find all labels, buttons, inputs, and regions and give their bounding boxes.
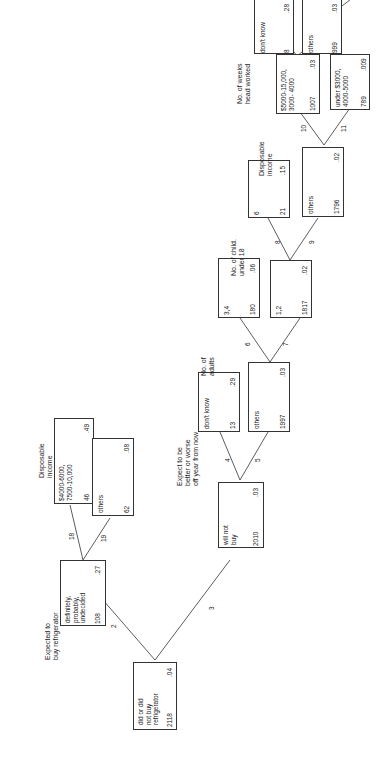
node-n5-count: 1997 <box>279 415 286 429</box>
node-n6-title: No. of adults <box>200 357 216 376</box>
node-n12-rate: .28 <box>283 4 290 13</box>
edge-label-4: 4 <box>224 458 231 462</box>
node-n9-label: others <box>307 196 315 214</box>
node-root-count: 2118 <box>166 713 173 727</box>
node-n5-label: others <box>253 411 261 429</box>
edge-label-6: 6 <box>244 342 251 346</box>
node-n5-rate: .03 <box>279 368 286 377</box>
node-n3-label: will not buy <box>222 525 237 545</box>
edge-label-8: 8 <box>274 240 281 244</box>
node-n18: $4000-6000, 7500-10,000 46 .49 <box>54 418 94 504</box>
node-n2-rate: .27 <box>94 566 101 575</box>
node-n10-label: $5000-15,000, 3000- 4000 <box>280 69 295 111</box>
node-n6-count: 180 <box>249 304 256 315</box>
edge-label-18: 18 <box>68 533 75 540</box>
node-n12: don't know 8 .28 <box>254 0 294 54</box>
node-n19-count: 62 <box>123 506 130 513</box>
node-n18-count: 46 <box>83 494 90 501</box>
node-n2-label: definitely, probably, undecided <box>64 593 87 623</box>
node-n10: $5000-15,000, 3000- 4000 1007 .03 <box>276 54 320 114</box>
node-n13-label: others <box>307 35 315 53</box>
edge-label-10: 10 <box>300 125 307 132</box>
node-n10-count: 1007 <box>309 97 316 111</box>
node-root-rate: .04 <box>166 668 173 677</box>
node-n19: others 62 .08 <box>92 438 134 516</box>
node-n8-rate: .15 <box>279 166 286 175</box>
node-n11-count: 789 <box>360 96 367 107</box>
node-n18-label: $4000-6000, 7500-10,000 <box>58 464 73 501</box>
node-n8-label: 6 <box>253 211 261 215</box>
edge-label-7: 7 <box>282 342 289 346</box>
node-n12-title: No. of weeks head worked <box>236 64 252 104</box>
node-n13: others 999 .03 <box>302 0 342 54</box>
node-n9-rate: .02 <box>333 153 340 162</box>
node-n7-count: 1817 <box>301 301 308 315</box>
node-n8-count: 21 <box>279 208 286 215</box>
edge-label-19: 19 <box>100 535 107 542</box>
node-n4-label: don't know <box>203 398 211 429</box>
node-n2-count: 108 <box>94 613 101 624</box>
node-n7-rate: .02 <box>301 266 308 275</box>
edge-label-3: 3 <box>208 606 215 610</box>
node-n4-title: Expect to be better or worse off year fr… <box>176 432 200 486</box>
node-n5: others 1997 .03 <box>248 362 290 432</box>
node-n8-title: No. of child. under 18 <box>230 239 246 276</box>
edge-label-11: 11 <box>340 125 347 132</box>
node-n11: under $3000, 4000-5000 789 .009 <box>330 54 370 110</box>
node-n3-rate: .03 <box>252 488 259 497</box>
node-root-label: did or did not buy refrigerator <box>137 693 160 725</box>
node-n3-count: 2010 <box>252 532 259 546</box>
node-n2: definitely, probably, undecided 108 .27 <box>60 560 106 626</box>
node-n10-title: Disposable income <box>258 141 274 176</box>
node-n9-count: 1796 <box>333 200 340 214</box>
node-n12-label: don't know <box>259 22 267 53</box>
node-n13-rate: .03 <box>331 4 338 13</box>
node-n6-rate: .06 <box>249 264 256 273</box>
node-n4-count: 13 <box>229 422 236 429</box>
edge-label-2: 2 <box>110 624 117 628</box>
node-root: did or did not buy refrigerator 2118 .04 <box>133 662 177 730</box>
node-n4-rate: .29 <box>229 378 236 387</box>
node-n11-rate: .009 <box>360 58 367 71</box>
node-n19-rate: .08 <box>123 444 130 453</box>
node-n6-label: 3,4 <box>223 306 231 315</box>
node-n9: others 1796 .02 <box>302 147 344 217</box>
node-n3: will not buy 2010 .03 <box>218 482 264 548</box>
node-n12-count: 8 <box>283 49 290 53</box>
node-n13-count: 999 <box>331 42 338 53</box>
node-n4: don't know 13 .29 <box>198 372 240 432</box>
node-n7-label: 1,2 <box>275 306 283 315</box>
node-n18-title: Disposable income <box>38 443 54 478</box>
node-n2-title: Expected to buy refrigerator <box>44 613 60 660</box>
node-n19-label: others <box>97 495 105 513</box>
node-n18-rate: .49 <box>83 424 90 433</box>
edge-label-5: 5 <box>254 458 261 462</box>
node-n11-label: under $3000, 4000-5000 <box>334 69 349 107</box>
edge-label-9: 9 <box>308 240 315 244</box>
node-n7: 1,2 1817 .02 <box>270 260 312 318</box>
node-n10-rate: .03 <box>309 60 316 69</box>
